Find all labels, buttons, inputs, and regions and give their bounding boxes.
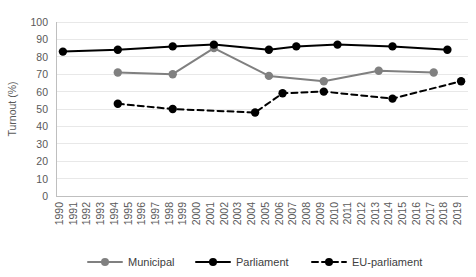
legend-item-parliament: Parliament [196, 256, 289, 268]
data-point [278, 89, 286, 97]
data-series [59, 40, 466, 116]
y-tick-label: 70 [36, 68, 48, 80]
x-tick-label: 2003 [231, 202, 243, 226]
x-tick-label: 1993 [94, 202, 106, 226]
data-point [457, 77, 465, 85]
y-tick-label: 100 [30, 16, 48, 28]
x-tick-label: 1994 [108, 202, 120, 226]
x-tick-label: 2007 [286, 202, 298, 226]
x-tick-label: 2005 [259, 202, 271, 226]
data-point [114, 68, 122, 76]
y-tick-label: 20 [36, 155, 48, 167]
data-point [210, 40, 218, 48]
x-tick-label: 2015 [396, 202, 408, 226]
data-point [114, 46, 122, 54]
data-point [388, 94, 396, 102]
y-tick-label: 30 [36, 138, 48, 150]
y-tick-label: 10 [36, 173, 48, 185]
x-tick-label: 2010 [328, 202, 340, 226]
data-point [114, 100, 122, 108]
data-point [59, 47, 67, 55]
chart-legend: MunicipalParliamentEU-parliament [88, 256, 422, 268]
data-point [169, 42, 177, 50]
data-point [443, 46, 451, 54]
data-point [320, 87, 328, 95]
x-tick-label: 1995 [122, 202, 134, 226]
x-tick-label: 1990 [53, 202, 65, 226]
turnout-line-chart: 0102030405060708090100 19901991199219931… [0, 0, 476, 277]
y-tick-label: 80 [36, 51, 48, 63]
x-tick-label: 2017 [424, 202, 436, 226]
series-municipal [114, 44, 438, 86]
legend-marker [101, 258, 109, 266]
data-point [169, 105, 177, 113]
x-tick-label: 2013 [369, 202, 381, 226]
data-point [320, 77, 328, 85]
y-tick-label: 40 [36, 120, 48, 132]
x-tick-label: 1999 [176, 202, 188, 226]
x-tick-label: 2014 [382, 202, 394, 226]
chart-canvas: 0102030405060708090100 19901991199219931… [0, 0, 476, 277]
data-point [430, 68, 438, 76]
data-point [169, 70, 177, 78]
series-parliament [59, 40, 452, 55]
x-tick-label: 2012 [355, 202, 367, 226]
legend-item-eu-parliament: EU-parliament [312, 256, 422, 268]
legend-label: Parliament [236, 256, 289, 268]
series-line [118, 48, 434, 81]
x-tick-label: 2006 [273, 202, 285, 226]
x-tick-label: 2000 [190, 202, 202, 226]
legend-item-municipal: Municipal [88, 256, 174, 268]
data-point [375, 67, 383, 75]
x-tick-label: 1997 [149, 202, 161, 226]
x-tick-label: 2008 [300, 202, 312, 226]
x-tick-label: 2009 [314, 202, 326, 226]
data-point [265, 72, 273, 80]
x-tick-label: 2001 [204, 202, 216, 226]
data-point [333, 40, 341, 48]
data-point [251, 108, 259, 116]
x-tick-label: 2016 [410, 202, 422, 226]
legend-marker [325, 258, 333, 266]
data-point [388, 42, 396, 50]
legend-marker [209, 258, 217, 266]
y-tick-label: 90 [36, 33, 48, 45]
y-tick-label: 50 [36, 103, 48, 115]
y-tick-labels: 0102030405060708090100 [30, 16, 48, 202]
y-tick-label: 0 [42, 190, 48, 202]
x-tick-label: 1996 [135, 202, 147, 226]
y-axis-title-text: Turnout (%) [6, 81, 18, 136]
y-tick-label: 60 [36, 86, 48, 98]
data-point [265, 46, 273, 54]
legend-label: Municipal [128, 256, 174, 268]
x-tick-label: 2002 [218, 202, 230, 226]
series-eu-parliament [114, 77, 466, 117]
y-axis-title: Turnout (%) [6, 81, 18, 136]
data-point [292, 42, 300, 50]
x-tick-labels: 1990199119921993199419951996199719981999… [53, 202, 463, 226]
legend-label: EU-parliament [352, 256, 422, 268]
x-tick-label: 2011 [341, 202, 353, 225]
x-tick-label: 2019 [451, 202, 463, 226]
x-tick-label: 1991 [67, 202, 79, 226]
x-tick-label: 1992 [80, 202, 92, 226]
x-tick-label: 2018 [437, 202, 449, 226]
x-tick-label: 1998 [163, 202, 175, 226]
x-tick-label: 2004 [245, 202, 257, 226]
